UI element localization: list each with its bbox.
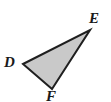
vertex-label-f: F [46,89,56,102]
triangle-polygon [23,30,90,89]
vertex-label-d: D [4,55,15,70]
vertex-label-e: E [89,11,99,26]
triangle-figure: E D F [0,0,111,102]
